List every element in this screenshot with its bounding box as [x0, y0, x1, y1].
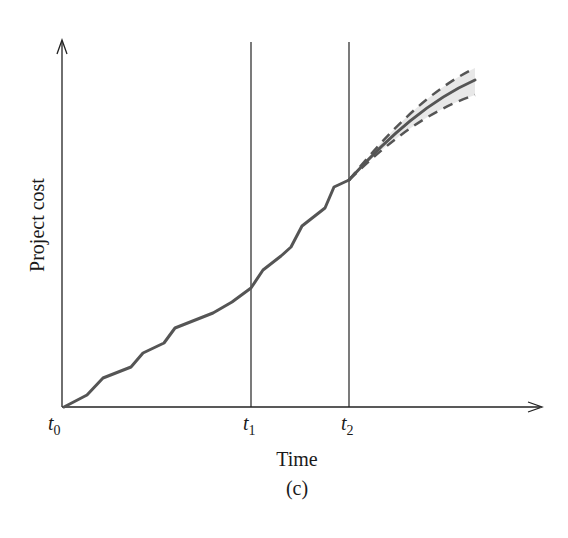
actual-cost-line: [64, 180, 349, 407]
y-axis-label: Project cost: [26, 178, 49, 272]
t1-label: t1: [243, 412, 256, 438]
t0-label: t0: [48, 412, 61, 438]
figure-caption: (c): [286, 477, 308, 500]
x-axis-label: Time: [276, 448, 318, 470]
t2-label: t2: [341, 412, 354, 438]
chart: Project cost t0 t1 t2 Time (c): [0, 0, 568, 538]
forecast-lower-line: [349, 95, 475, 180]
